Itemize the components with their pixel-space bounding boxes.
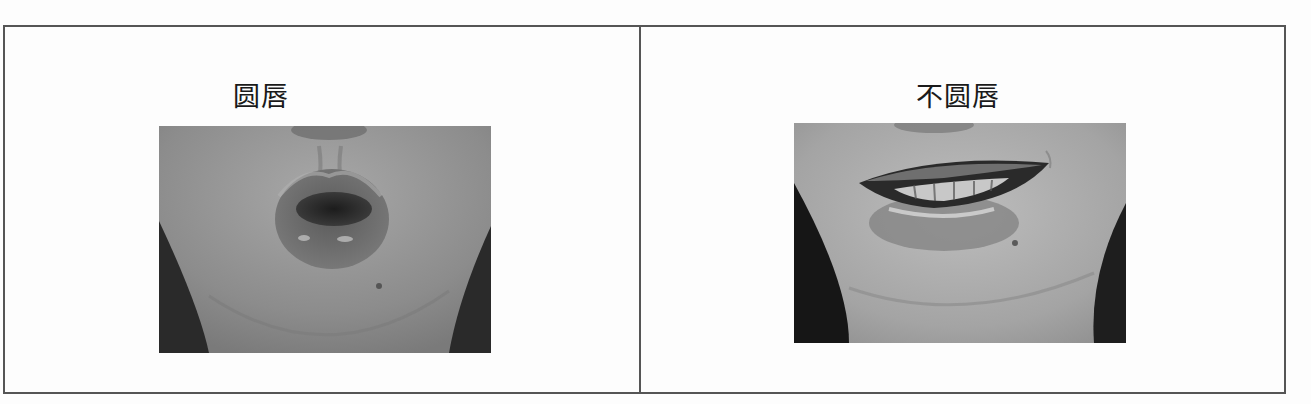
rounded-lips-photo bbox=[159, 126, 491, 353]
unrounded-lips-photo bbox=[794, 123, 1126, 343]
unrounded-lips-image bbox=[794, 123, 1126, 343]
document-page: 圆唇 bbox=[0, 0, 1311, 404]
lip-shape-comparison-table: 圆唇 bbox=[3, 25, 1286, 394]
table-cell-unrounded-lips: 不圆唇 bbox=[641, 27, 1284, 392]
caption-rounded-lips: 圆唇 bbox=[233, 75, 289, 114]
table-cell-rounded-lips: 圆唇 bbox=[5, 27, 641, 392]
rounded-lips-image bbox=[159, 126, 491, 353]
caption-unrounded-lips: 不圆唇 bbox=[916, 75, 1000, 114]
